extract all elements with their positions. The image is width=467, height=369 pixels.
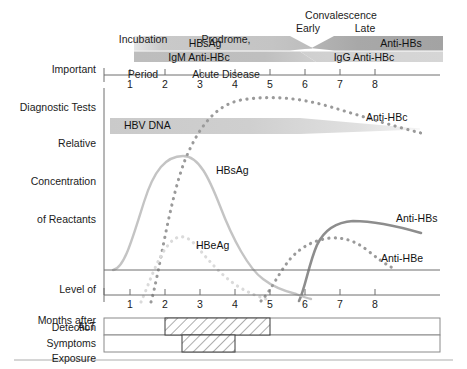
phase-late: Late	[345, 23, 385, 35]
hbv-serology-figure: Incubation Period Prodrome, Acute Diseas…	[0, 0, 467, 369]
top-tick-5: 5	[262, 79, 278, 91]
phase-incubation-line1: Incubation	[108, 34, 178, 46]
band-label-igg-anti-hbc: IgG Anti-HBc	[321, 52, 407, 64]
top-tick-1: 1	[122, 79, 138, 91]
curve-label-hbeag: HBeAg	[196, 240, 229, 252]
curve-hbsag	[113, 156, 296, 294]
row-label-relative-concentration-line3: of Reactants	[0, 213, 96, 226]
phase-early: Early	[285, 23, 331, 35]
row-label-alt: ALT	[0, 320, 96, 333]
band-label-hbv-dna: HBV DNA	[124, 120, 188, 132]
curve-label-hbsag: HBsAg	[216, 165, 249, 177]
bottom-tick-1: 1	[122, 299, 138, 311]
row-label-symptoms: Symptoms	[0, 337, 96, 350]
row-label-relative-concentration: Relative Concentration of Reactants	[0, 111, 96, 252]
row-label-months-line2: Exposure	[0, 352, 96, 365]
alt-row-box	[104, 318, 440, 335]
row-label-relative-concentration-line2: Concentration	[0, 175, 96, 188]
bottom-tick-4: 4	[227, 299, 243, 311]
top-tick-7: 7	[332, 79, 348, 91]
bottom-tick-8: 8	[367, 299, 383, 311]
top-tick-3: 3	[192, 79, 208, 91]
symptoms-block	[182, 335, 235, 352]
symptoms-row-box	[104, 335, 440, 352]
curve-anti-hbe	[261, 238, 393, 301]
curve-label-anti-hbe: Anti-HBe	[381, 253, 423, 265]
phase-convalescence: Convalescence	[288, 10, 394, 22]
bottom-tick-7: 7	[332, 299, 348, 311]
band-label-anti-hbs: Anti-HBs	[370, 38, 432, 50]
curve-label-anti-hbs: Anti-HBs	[396, 213, 437, 225]
row-label-diagnostic-tests-line1: Important	[0, 63, 96, 76]
top-tick-6: 6	[297, 79, 313, 91]
curve-label-anti-hbc: Anti-HBc	[366, 112, 407, 124]
top-tick-8: 8	[367, 79, 383, 91]
bottom-tick-3: 3	[192, 299, 208, 311]
row-label-relative-concentration-line1: Relative	[0, 137, 96, 150]
alt-elevation-block	[165, 318, 270, 335]
top-tick-4: 4	[227, 79, 243, 91]
bottom-tick-2: 2	[157, 299, 173, 311]
band-label-igm-anti-hbc: IgM Anti-HBc	[156, 52, 242, 64]
band-label-hbsag: HBsAg	[175, 38, 235, 50]
bottom-tick-6: 6	[297, 299, 313, 311]
top-tick-2: 2	[157, 79, 173, 91]
bottom-tick-5: 5	[262, 299, 278, 311]
